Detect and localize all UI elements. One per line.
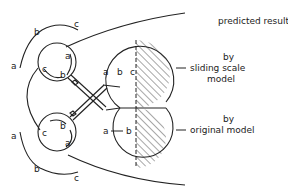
outer-envelope-top: [66, 13, 185, 47]
outer-envelope-left: [27, 68, 40, 130]
lower-circle-label-b: b: [60, 121, 66, 131]
original-model-bulb: [113, 108, 173, 168]
lower-arc-label-b: b: [34, 164, 40, 174]
upper-outer-arc: [20, 25, 78, 68]
sliding-scale-bulb: [106, 40, 174, 108]
upper-circle-label-b: b: [60, 70, 66, 80]
diagram-canvas: c b a a b c c b a a b c a b c a b predic…: [0, 0, 288, 194]
upper-arc-label-a: a: [11, 61, 17, 71]
original-bulb-label-a: a: [103, 126, 109, 136]
upper-circle-label-c: c: [42, 64, 47, 74]
upper-arc-label-c: c: [74, 19, 79, 29]
sliding-scale-label: sliding scale: [190, 63, 246, 73]
lower-circle-label-c: c: [42, 128, 47, 138]
sliding-bulb-label-c: c: [130, 67, 135, 77]
original-model-label: original model: [190, 125, 255, 135]
lower-arc-label-c: c: [74, 173, 79, 183]
sliding-model-label: model: [207, 74, 235, 84]
upper-circle-label-a: a: [65, 51, 71, 61]
predicted-results-title: predicted results: [218, 16, 288, 26]
lower-arc-label-a: a: [11, 131, 17, 141]
sliding-bulb-label-b: b: [117, 67, 123, 77]
lower-circle-label-a: a: [65, 138, 71, 148]
sliding-bulb-label-a: a: [103, 67, 109, 77]
original-bulb-label-b: b: [126, 126, 132, 136]
outer-envelope-bottom: [68, 155, 185, 185]
sliding-by-label: by: [223, 52, 235, 62]
connecting-tubes: [68, 75, 120, 120]
upper-arc-label-b: b: [34, 27, 40, 37]
original-by-label: by: [223, 114, 235, 124]
